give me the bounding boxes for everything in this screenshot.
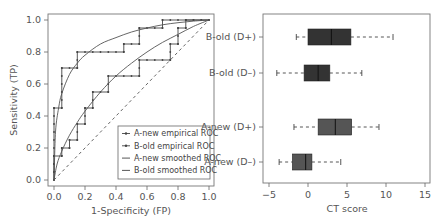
boxplot-chart: −5051015CT scoreB-old (D+)B-old (D–)A-ne… <box>0 0 442 223</box>
category-label: A-new (D+) <box>201 121 256 132</box>
box-1: B-old (D–) <box>209 65 362 81</box>
category-label: B-old (D+) <box>206 31 256 42</box>
box-2: A-new (D+) <box>201 119 379 135</box>
category-label: B-old (D–) <box>209 67 256 78</box>
iqr-box <box>292 154 312 170</box>
x-tick-label: −5 <box>262 189 276 200</box>
category-label: A-new (D–) <box>204 156 256 167</box>
box-3: A-new (D–) <box>204 154 341 170</box>
x-tick-label: 10 <box>380 189 392 200</box>
x-tick-label: 5 <box>344 189 350 200</box>
iqr-box <box>308 29 351 45</box>
figure: 0.00.20.40.60.81.00.00.20.40.60.81.01-Sp… <box>0 0 442 223</box>
iqr-box <box>304 65 330 81</box>
x-tick-label: 0 <box>305 189 311 200</box>
x-axis-title: CT score <box>327 203 368 214</box>
x-tick-label: 15 <box>419 189 431 200</box>
box-0: B-old (D+) <box>206 29 393 45</box>
